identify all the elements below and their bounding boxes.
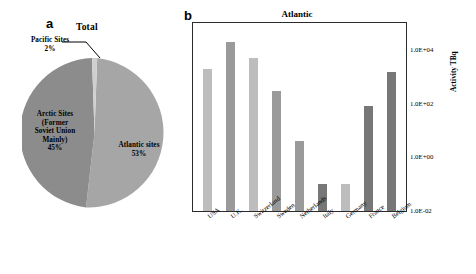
pie-label-atlantic-name: Atlantic sites (108, 141, 170, 150)
panel-a-label: a (46, 16, 53, 31)
pie-label-pacific-name: Pacific Sites (18, 36, 82, 45)
pie-label-arctic-l4: Mainly) (24, 136, 86, 145)
bar-belgium[interactable] (387, 72, 396, 211)
bar-slot (242, 23, 265, 211)
bar-slot (357, 23, 380, 211)
bar-slot (196, 23, 219, 211)
y-tick-label: 1.0E+00 (410, 153, 433, 160)
bar-usa[interactable] (203, 69, 212, 211)
bar-u-k[interactable] (226, 42, 235, 211)
bar-germany[interactable] (341, 184, 350, 211)
pie-slice-atlantic (86, 58, 163, 207)
bar-chart-y-axis-title: Activity TBq (449, 51, 458, 92)
pie-label-arctic-l1: Arctic Sites (24, 110, 86, 119)
y-tick-label: 1.0E+04 (410, 45, 433, 52)
pie-chart-title: Total (76, 22, 98, 32)
bar-slot (265, 23, 288, 211)
pie-label-pacific: Pacific Sites 2% (18, 36, 82, 53)
bar-slot (311, 23, 334, 211)
pie-label-arctic-value: 45% (24, 144, 86, 153)
bar-chart-plot-frame (192, 22, 407, 212)
pie-label-arctic-l3: Soviet Union (24, 127, 86, 136)
figure-root: a Total Pacific Sites 2% Arctic Sites (F… (0, 0, 476, 274)
pie-label-pacific-value: 2% (18, 45, 82, 54)
bar-chart-plot-area (193, 23, 406, 211)
bar-sweden[interactable] (272, 91, 281, 211)
bar-netherlands[interactable] (295, 141, 304, 211)
bar-france[interactable] (364, 106, 373, 211)
panel-b-bar-chart: b Atlantic 1.0E+041.0E+021.0E+001.0E-02 … (186, 0, 476, 274)
pie-label-arctic-l2: (Former (24, 119, 86, 128)
bar-slot (334, 23, 357, 211)
pie-label-atlantic: Atlantic sites 53% (108, 141, 170, 158)
y-tick-label: 1.0E-02 (410, 207, 432, 214)
panel-a-pie-chart: a Total Pacific Sites 2% Arctic Sites (F… (0, 0, 186, 274)
bar-chart-title: Atlantic (186, 9, 408, 19)
bar-slot (380, 23, 403, 211)
bar-slot (288, 23, 311, 211)
pie-label-arctic: Arctic Sites (Former Soviet Union Mainly… (24, 110, 86, 153)
bar-chart-x-axis-labels: USAU.K.SwitzerlandSwedenNetherlandsItaly… (192, 214, 407, 272)
y-tick-label: 1.0E+02 (410, 99, 433, 106)
pie-label-atlantic-value: 53% (108, 150, 170, 159)
bar-slot (219, 23, 242, 211)
bar-switzerland[interactable] (249, 58, 258, 211)
